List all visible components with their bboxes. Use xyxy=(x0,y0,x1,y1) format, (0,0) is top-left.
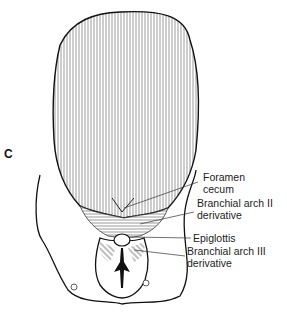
label-branchial-arch-iii: Branchial arch III derivative xyxy=(187,245,266,269)
panel-letter: C xyxy=(4,147,13,161)
left-pore xyxy=(71,284,77,290)
anterior-tongue xyxy=(53,12,198,218)
label-line: derivative xyxy=(197,209,273,221)
label-line: Branchial arch II xyxy=(197,197,273,209)
label-foramen-cecum: Foramen cecum xyxy=(203,171,245,195)
label-epiglottis: Epiglottis xyxy=(193,232,236,244)
label-branchial-arch-ii: Branchial arch II derivative xyxy=(197,197,273,221)
label-line: Foramen xyxy=(203,171,245,183)
right-pore xyxy=(143,280,149,286)
epiglottis-shape xyxy=(114,234,130,246)
label-line: derivative xyxy=(187,257,266,269)
label-line: Branchial arch III xyxy=(187,245,266,257)
tongue-diagram: C Foramen cecum Branchial arch II deriva… xyxy=(0,0,287,312)
label-line: cecum xyxy=(203,183,245,195)
label-line: Epiglottis xyxy=(193,232,236,244)
